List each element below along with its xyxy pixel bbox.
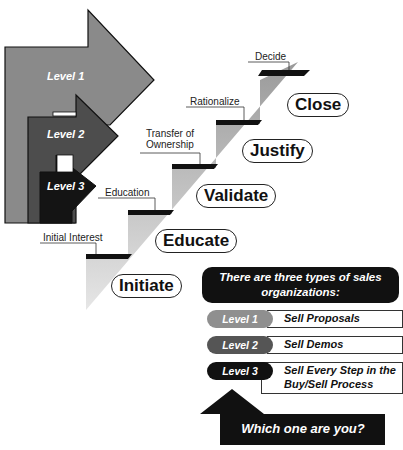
step-label-education: Education <box>105 187 149 198</box>
step-label-rationalize: Rationalize <box>190 96 239 107</box>
level-1-arrow-label: Level 1 <box>47 70 84 82</box>
legend-description: Sell Proposals <box>267 310 403 328</box>
legend-description: Sell Every Step in the Buy/Sell Process <box>261 362 403 394</box>
legend-level-tag: Level 1 <box>207 310 273 328</box>
stage-initiate: Initiate <box>111 274 182 298</box>
legend-description: Sell Demos <box>267 336 403 354</box>
level-3-arrow-label: Level 3 <box>47 180 84 192</box>
step-top-1 <box>86 254 132 259</box>
step-label-transfer-of-ownership: Transfer of Ownership <box>146 128 194 150</box>
level-2-arrow-label: Level 2 <box>47 128 84 140</box>
legend-header: There are three types of sales organizat… <box>202 267 399 303</box>
step-label-initial-interest: Initial Interest <box>43 232 102 243</box>
legend-row-level-3: Sell Every Step in the Buy/Sell Process … <box>207 362 402 380</box>
stage-close: Close <box>287 93 349 117</box>
step-top-5 <box>258 70 310 76</box>
legend-level-tag: Level 3 <box>207 362 273 380</box>
stage-justify: Justify <box>242 139 313 163</box>
step-top-2 <box>128 210 174 215</box>
legend-row-level-2: Sell Demos Level 2 <box>207 336 402 354</box>
legend-row-level-1: Sell Proposals Level 1 <box>207 310 402 328</box>
transfer-line-2: Ownership <box>146 139 194 150</box>
stage-validate: Validate <box>196 184 276 208</box>
stage-educate: Educate <box>155 229 237 253</box>
step-top-4 <box>216 120 262 125</box>
transfer-line-1: Transfer of <box>146 128 194 139</box>
legend-level-tag: Level 2 <box>207 336 273 354</box>
step-label-decide: Decide <box>255 51 286 62</box>
step-top-3 <box>172 164 218 169</box>
question-callout: Which one are you? <box>224 414 382 444</box>
